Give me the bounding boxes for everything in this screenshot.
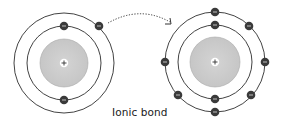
electron xyxy=(174,91,183,100)
electron xyxy=(211,108,220,117)
arrowhead-icon xyxy=(165,18,171,24)
electron xyxy=(211,8,220,17)
electron xyxy=(60,22,69,31)
electron xyxy=(161,58,170,67)
electron xyxy=(261,58,270,67)
electron xyxy=(211,95,220,104)
valence-electron xyxy=(95,22,104,31)
electron-transfer-arrow xyxy=(108,14,171,24)
diagram-caption: Ionic bond xyxy=(112,106,168,118)
electron xyxy=(211,21,220,30)
electron xyxy=(60,96,69,105)
electron xyxy=(247,91,256,100)
acceptor-atom xyxy=(161,8,270,117)
donor-atom xyxy=(14,13,114,113)
electron xyxy=(245,22,254,31)
